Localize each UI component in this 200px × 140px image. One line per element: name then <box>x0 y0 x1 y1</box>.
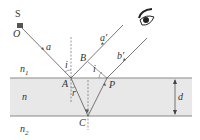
diagram-graphics <box>0 0 200 140</box>
label-medium-slab: n <box>22 92 27 102</box>
eye-icon <box>139 9 154 25</box>
medium-bottom-subscript: 2 <box>25 129 29 137</box>
angle-arc-i-A <box>65 70 71 72</box>
label-point-B: B <box>80 53 86 63</box>
label-point-P: P <box>109 80 115 90</box>
wavefront-line-PB <box>88 62 107 78</box>
label-origin: O <box>13 29 20 39</box>
reflected-ray-b <box>107 38 147 78</box>
thin-film-diagram: S O a a' b' B A P C i i r n1 n n2 d <box>0 0 200 140</box>
label-thickness: d <box>178 92 183 102</box>
label-point-C: C <box>79 118 86 128</box>
label-ray-a-prime: a' <box>100 33 107 43</box>
incident-ray <box>21 27 71 78</box>
label-angle-i-P: i <box>93 64 96 74</box>
label-source: S <box>15 9 21 19</box>
label-ray-a: a <box>46 42 51 52</box>
label-point-A: A <box>62 79 68 89</box>
label-angle-i-A: i <box>65 60 68 70</box>
slab <box>10 78 192 116</box>
label-medium-bottom: n2 <box>20 124 29 137</box>
label-ray-b-prime: b' <box>117 51 124 61</box>
label-medium-top: n1 <box>20 64 29 77</box>
label-angle-r: r <box>72 88 76 98</box>
medium-top-subscript: 1 <box>25 69 29 77</box>
